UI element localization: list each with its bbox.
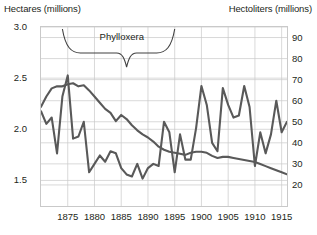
x-tick-1890: 1890	[137, 212, 158, 222]
right-axis-title: Hectoliters (millions)	[229, 3, 312, 14]
right-tick-70: 70	[292, 75, 316, 85]
x-tick-1875: 1875	[57, 212, 78, 222]
right-tick-80: 80	[292, 54, 316, 64]
right-tick-50: 50	[292, 117, 316, 127]
left-tick-1.5: 1.5	[1, 175, 27, 185]
plot-svg	[41, 27, 287, 206]
x-tick-1905: 1905	[218, 212, 239, 222]
left-tick-2.5: 2.5	[1, 73, 27, 83]
phylloxera-label: Phylloxera	[100, 31, 144, 42]
right-tick-40: 40	[292, 138, 316, 148]
x-tick-1895: 1895	[164, 212, 185, 222]
hectoliters-line	[41, 75, 287, 178]
right-tick-90: 90	[292, 33, 316, 43]
left-tick-3: 3.0	[1, 22, 27, 32]
phylloxera-chart: Hectares (millions) Hectoliters (million…	[0, 0, 317, 235]
x-tick-1910: 1910	[244, 212, 265, 222]
plot-area	[40, 26, 288, 207]
x-tick-1915: 1915	[271, 212, 292, 222]
left-tick-2: 2.0	[1, 124, 27, 134]
right-tick-20: 20	[292, 180, 316, 190]
right-tick-60: 60	[292, 96, 316, 106]
left-axis-title: Hectares (millions)	[4, 3, 81, 14]
x-tick-1880: 1880	[84, 212, 105, 222]
right-tick-30: 30	[292, 159, 316, 169]
x-tick-1900: 1900	[191, 212, 212, 222]
x-tick-1885: 1885	[111, 212, 132, 222]
